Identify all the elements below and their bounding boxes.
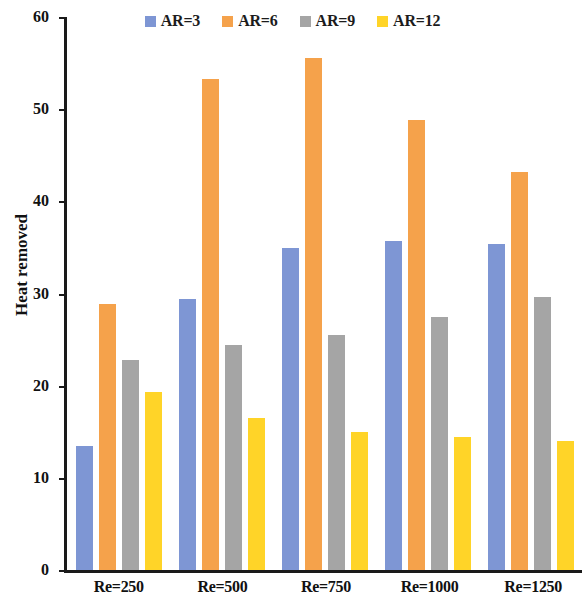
y-axis-tick-label: 40 [33,192,49,210]
bar [122,360,139,570]
y-axis-tick: 50 [59,109,65,111]
x-axis-label: Re=1250 [481,578,585,596]
bar [385,241,402,570]
bar-groups [67,17,582,570]
bar [145,392,162,570]
x-axis-label: Re=1000 [378,578,482,596]
y-axis-tick: 10 [59,478,65,480]
y-axis-title: Heat removed [12,195,32,335]
bar [248,418,265,570]
y-axis-tick: 40 [59,201,65,203]
bar [431,317,448,570]
bar [511,172,528,570]
bar-group [170,17,273,570]
y-axis-tick-label: 50 [33,100,49,118]
y-axis-tick: 60 [59,17,65,19]
x-axis-label: Re=250 [67,578,171,596]
bar [76,446,93,570]
y-axis-tick-label: 60 [33,8,49,26]
bar [328,335,345,570]
bar [99,304,116,570]
plot-area: 0102030405060 [64,17,582,573]
bar [305,58,322,570]
bar [282,248,299,570]
y-axis-tick-label: 30 [33,285,49,303]
bar [488,244,505,570]
y-axis-tick: 30 [59,294,65,296]
bar [202,79,219,570]
bar [179,299,196,570]
bar-group [479,17,582,570]
bar [557,441,574,570]
bar [534,297,551,570]
y-axis-tick: 0 [59,570,65,572]
bar-group [273,17,376,570]
x-axis-label: Re=500 [171,578,275,596]
bar-chart: AR=3AR=6AR=9AR=12 Heat removed 010203040… [0,0,585,602]
x-axis-line [64,570,582,573]
bar [351,432,368,570]
bar [408,120,425,570]
y-axis-tick-label: 0 [41,561,49,579]
x-axis-label: Re=750 [274,578,378,596]
bar [454,437,471,570]
bar-group [376,17,479,570]
x-axis-labels: Re=250Re=500Re=750Re=1000Re=1250 [67,578,585,596]
y-axis-tick: 20 [59,386,65,388]
bar-group [67,17,170,570]
y-axis-tick-label: 20 [33,377,49,395]
bar [225,345,242,570]
y-axis-tick-label: 10 [33,469,49,487]
